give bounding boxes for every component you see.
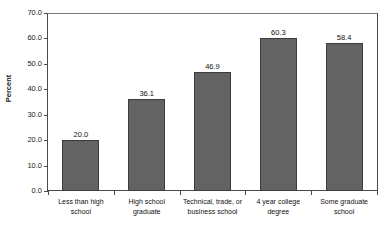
x-axis-category-label: Less than high school	[48, 197, 114, 216]
bar-slot: 58.4	[326, 13, 363, 191]
bars-container: 20.036.146.960.358.4	[48, 13, 377, 191]
bar-slot: 36.1	[128, 13, 165, 191]
y-axis-tick-label: 10.0	[10, 161, 42, 170]
x-axis-category-label: 4 year college degree	[245, 197, 311, 216]
x-axis-tick-mark	[180, 191, 181, 195]
bar	[128, 99, 165, 191]
bar	[62, 140, 99, 191]
x-axis-category-line: Less than high school	[58, 198, 104, 215]
y-axis-tick-label: 50.0	[10, 59, 42, 68]
bar	[326, 43, 363, 192]
y-axis-tick-label: 20.0	[10, 135, 42, 144]
bar-slot: 46.9	[194, 13, 231, 191]
x-axis-tick-mark	[377, 191, 378, 195]
y-axis-tick-label: 40.0	[10, 84, 42, 93]
x-axis-tick-mark	[245, 191, 246, 195]
y-axis-tick-label: 30.0	[10, 110, 42, 119]
x-axis-category-line: High school graduate	[128, 198, 165, 215]
y-axis-tick-label: 0.0	[10, 186, 42, 195]
x-axis-category-label: Some graduate school	[311, 197, 377, 216]
x-axis: Less than high schoolHigh school graduat…	[48, 191, 377, 233]
bar	[260, 38, 297, 191]
bar-value-label: 36.1	[116, 89, 177, 98]
bar	[194, 72, 231, 191]
bar-value-label: 46.9	[182, 62, 243, 71]
cropped-title-strip	[0, 0, 392, 7]
x-axis-tick-mark	[114, 191, 115, 195]
x-axis-category-label: High school graduate	[114, 197, 180, 216]
x-axis-category-line: 4 year college degree	[256, 198, 300, 215]
y-axis-tick-label: 70.0	[10, 8, 42, 17]
bar-value-label: 58.4	[314, 33, 375, 42]
x-axis-tick-mark	[48, 191, 49, 195]
x-axis-category-line: Some graduate school	[320, 198, 368, 215]
bar-slot: 20.0	[62, 13, 99, 191]
bar-value-label: 20.0	[50, 130, 111, 139]
y-axis-tick-label: 60.0	[10, 33, 42, 42]
x-axis-category-line: Technical, trade, or	[183, 198, 242, 205]
x-axis-tick-mark	[311, 191, 312, 195]
bar-chart-figure: Percent 70.060.050.040.030.020.010.00.0 …	[0, 0, 392, 233]
bar-slot: 60.3	[260, 13, 297, 191]
x-axis-category-line: business school	[180, 207, 246, 217]
x-axis-category-label: Technical, trade, orbusiness school	[180, 197, 246, 216]
bar-value-label: 60.3	[248, 28, 309, 37]
